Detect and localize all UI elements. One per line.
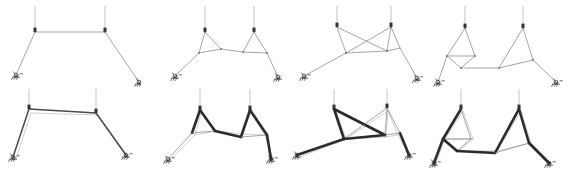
- reference-member: [388, 111, 398, 135]
- load-arrow: [253, 6, 256, 32]
- truss-member: [499, 28, 523, 68]
- truss-member: [200, 110, 215, 131]
- truss-member: [461, 56, 475, 68]
- truss-member: [400, 48, 417, 78]
- truss-node: [390, 26, 392, 28]
- truss-member: [16, 32, 35, 75]
- load-arrow: [333, 89, 336, 109]
- truss-node: [242, 51, 244, 53]
- load-arrow: [390, 6, 393, 27]
- support-symbol: [171, 73, 182, 81]
- load-arrow: [386, 89, 389, 108]
- reference-member: [171, 135, 195, 159]
- truss-member: [205, 32, 221, 49]
- truss-member: [267, 135, 271, 159]
- truss-member: [443, 109, 461, 139]
- truss-panel-panel-r2c1: [0, 87, 141, 173]
- truss-member: [434, 139, 443, 163]
- truss-member: [13, 109, 29, 157]
- truss-node: [266, 52, 268, 54]
- truss-canvas: [282, 0, 423, 87]
- truss-canvas: [282, 87, 423, 173]
- truss-figure-grid: [0, 0, 563, 173]
- truss-panel-panel-r1c1: [0, 0, 141, 87]
- truss-member: [387, 48, 400, 51]
- support-symbol: [300, 73, 311, 81]
- truss-member: [523, 28, 533, 60]
- load-arrow: [34, 6, 37, 32]
- support-symbol: [122, 152, 133, 160]
- truss-node: [522, 27, 524, 29]
- support-symbol: [274, 74, 282, 82]
- truss-canvas: [0, 0, 141, 87]
- truss-node: [204, 31, 206, 33]
- truss-node: [34, 31, 36, 33]
- truss-node: [464, 27, 466, 29]
- support-symbol: [405, 152, 416, 160]
- truss-member: [250, 110, 267, 135]
- truss-member: [254, 32, 267, 53]
- truss-member: [465, 28, 475, 56]
- truss-member: [519, 109, 529, 143]
- truss-member: [391, 27, 400, 48]
- reference-member: [31, 113, 98, 115]
- truss-member: [400, 133, 409, 155]
- truss-node: [336, 26, 338, 28]
- support-symbol: [413, 75, 423, 83]
- support-symbol: [552, 79, 563, 87]
- truss-member: [297, 139, 344, 155]
- truss-member: [447, 56, 461, 68]
- truss-member: [241, 110, 250, 137]
- truss-member: [105, 32, 139, 82]
- truss-member: [457, 139, 471, 151]
- truss-member: [221, 49, 243, 52]
- load-arrow: [249, 89, 252, 110]
- truss-panel-panel-r2c2: [141, 87, 282, 173]
- truss-node: [460, 67, 462, 69]
- load-arrow: [336, 6, 339, 27]
- truss-panel-panel-r1c4: [423, 0, 563, 87]
- load-arrow: [95, 89, 98, 113]
- truss-node: [104, 31, 106, 33]
- load-arrow: [199, 89, 202, 110]
- truss-member: [387, 27, 391, 51]
- truss-member: [346, 27, 391, 53]
- reference-member: [16, 113, 31, 159]
- truss-member: [96, 113, 126, 155]
- truss-panel-panel-r1c3: [282, 0, 423, 87]
- truss-node: [532, 59, 534, 61]
- truss-node: [198, 52, 200, 54]
- truss-member: [175, 53, 199, 76]
- truss-member: [346, 51, 387, 53]
- truss-member: [199, 32, 205, 53]
- truss-node: [474, 55, 476, 57]
- truss-member: [533, 60, 556, 82]
- truss-member: [337, 27, 387, 51]
- reference-member: [463, 111, 473, 139]
- load-arrow: [28, 89, 31, 109]
- truss-member: [499, 60, 533, 68]
- reference-member: [445, 111, 463, 139]
- truss-canvas: [0, 87, 141, 173]
- truss-member: [243, 32, 254, 52]
- truss-node: [345, 52, 347, 54]
- truss-node: [220, 48, 222, 50]
- truss-member: [29, 109, 96, 113]
- truss-member: [438, 56, 447, 82]
- truss-member: [443, 139, 457, 151]
- reference-member: [459, 139, 473, 151]
- truss-member: [461, 109, 471, 139]
- reference-member: [241, 134, 265, 135]
- truss-member: [529, 143, 549, 163]
- truss-canvas: [141, 0, 282, 87]
- reference-member: [531, 143, 551, 163]
- truss-member: [168, 133, 192, 159]
- truss-panel-panel-r2c4: [423, 87, 563, 173]
- truss-member: [199, 49, 221, 53]
- truss-panel-panel-r2c3: [282, 87, 423, 173]
- load-arrow: [460, 89, 463, 109]
- truss-member: [243, 52, 267, 53]
- truss-panel-panel-r1c2: [141, 0, 282, 87]
- load-arrow: [104, 6, 107, 32]
- truss-member: [215, 131, 241, 137]
